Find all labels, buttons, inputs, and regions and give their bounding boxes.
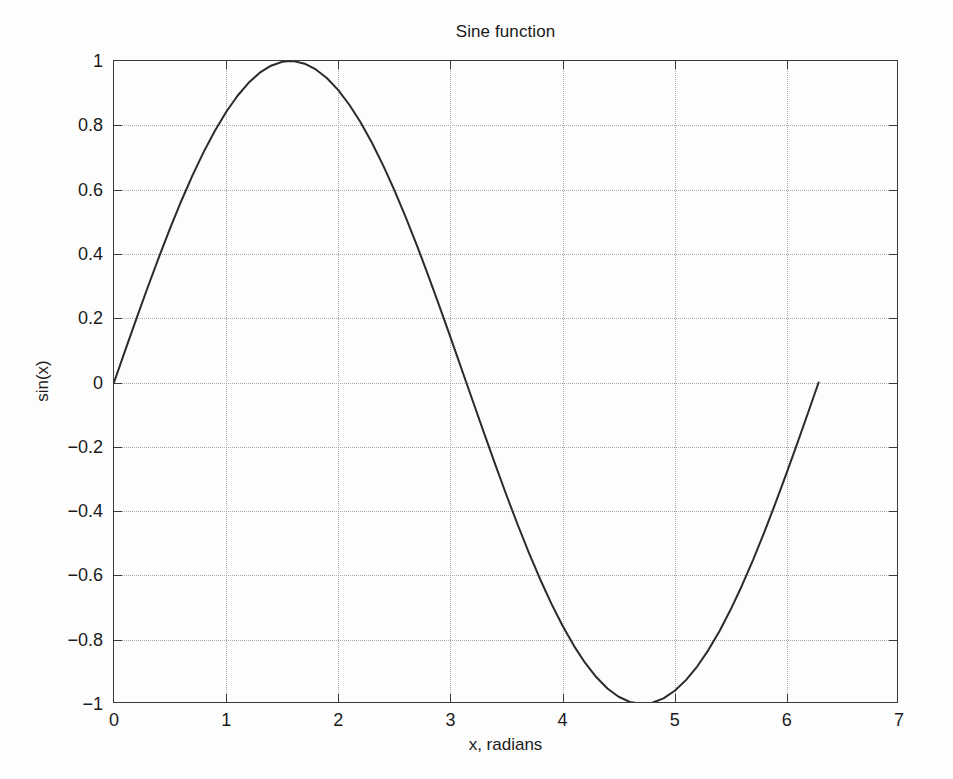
x-tick-mark	[787, 694, 788, 702]
x-tick-mark	[338, 694, 339, 702]
x-tick-mark	[338, 61, 339, 69]
sine-curve-path	[114, 61, 819, 702]
x-tick-mark	[450, 61, 451, 69]
y-tick-mark	[889, 383, 897, 384]
x-tick-label: 5	[670, 710, 680, 731]
y-tick-mark	[889, 447, 897, 448]
y-tick-label: 0	[93, 372, 103, 393]
x-tick-mark	[787, 61, 788, 69]
chart-figure: Sine function −1−0.8−0.6−0.4−0.200.20.40…	[0, 0, 953, 779]
y-tick-label: 0.8	[78, 115, 103, 136]
x-tick-label: 7	[894, 710, 904, 731]
y-tick-mark	[114, 125, 122, 126]
x-tick-mark	[226, 61, 227, 69]
y-tick-mark	[114, 190, 122, 191]
y-tick-label: 0.4	[78, 243, 103, 264]
x-tick-label: 1	[221, 710, 231, 731]
y-tick-mark	[889, 575, 897, 576]
y-tick-label: −0.2	[67, 436, 103, 457]
y-tick-mark	[889, 125, 897, 126]
x-tick-mark	[563, 694, 564, 702]
y-tick-mark	[889, 318, 897, 319]
x-tick-mark	[675, 61, 676, 69]
y-tick-mark	[114, 254, 122, 255]
sine-curve	[114, 61, 897, 702]
x-tick-mark	[226, 694, 227, 702]
y-tick-label: 0.2	[78, 308, 103, 329]
y-axis-title: sin(x)	[33, 360, 53, 402]
y-tick-mark	[114, 575, 122, 576]
y-tick-mark	[114, 640, 122, 641]
y-tick-mark	[114, 383, 122, 384]
y-tick-mark	[889, 511, 897, 512]
x-tick-mark	[450, 694, 451, 702]
plot-area: −1−0.8−0.6−0.4−0.200.20.40.60.8101234567	[113, 60, 898, 703]
x-tick-label: 2	[333, 710, 343, 731]
y-tick-label: −0.4	[67, 501, 103, 522]
y-tick-label: −0.8	[67, 629, 103, 650]
y-tick-label: 0.6	[78, 179, 103, 200]
y-tick-mark	[889, 254, 897, 255]
y-tick-mark	[114, 318, 122, 319]
y-tick-mark	[889, 190, 897, 191]
y-tick-label: 1	[93, 51, 103, 72]
chart-title: Sine function	[113, 22, 898, 42]
y-tick-label: −1	[82, 694, 103, 715]
x-tick-label: 0	[109, 710, 119, 731]
x-tick-label: 4	[558, 710, 568, 731]
plot-inner	[114, 61, 897, 702]
x-tick-mark	[675, 694, 676, 702]
x-tick-label: 3	[445, 710, 455, 731]
x-tick-label: 6	[782, 710, 792, 731]
y-tick-mark	[889, 640, 897, 641]
x-tick-mark	[563, 61, 564, 69]
y-tick-label: −0.6	[67, 565, 103, 586]
y-tick-mark	[114, 511, 122, 512]
y-tick-mark	[114, 447, 122, 448]
x-axis-title: x, radians	[113, 735, 898, 755]
